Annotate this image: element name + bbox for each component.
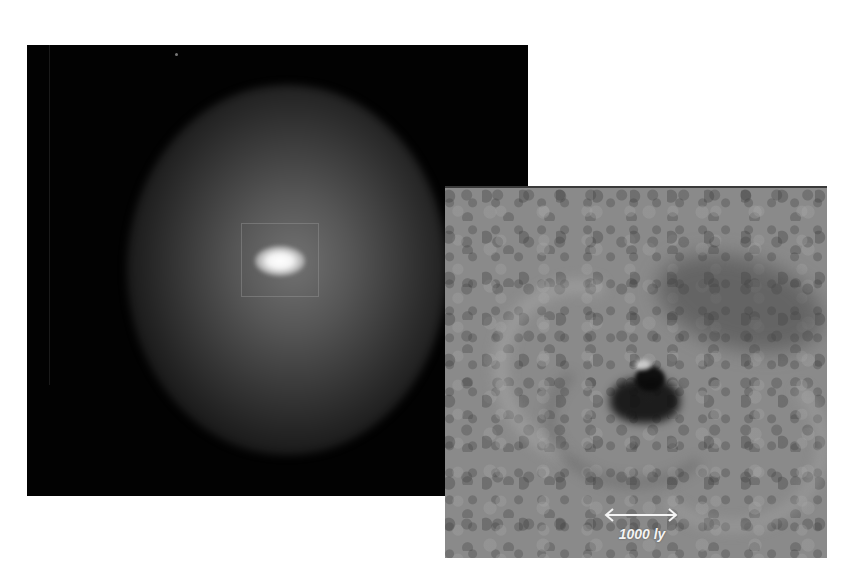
nucleus-highlight <box>635 360 651 370</box>
galaxy-core-zoom-image: 1000 ly <box>445 186 827 558</box>
galaxy-core <box>255 246 305 276</box>
dark-nucleus-core <box>635 366 665 391</box>
double-arrow-icon <box>602 506 680 524</box>
scale-bar: 1000 ly <box>602 506 680 546</box>
foreground-star <box>175 53 178 56</box>
edge-line <box>49 45 50 385</box>
scale-bar-label: 1000 ly <box>602 526 682 542</box>
